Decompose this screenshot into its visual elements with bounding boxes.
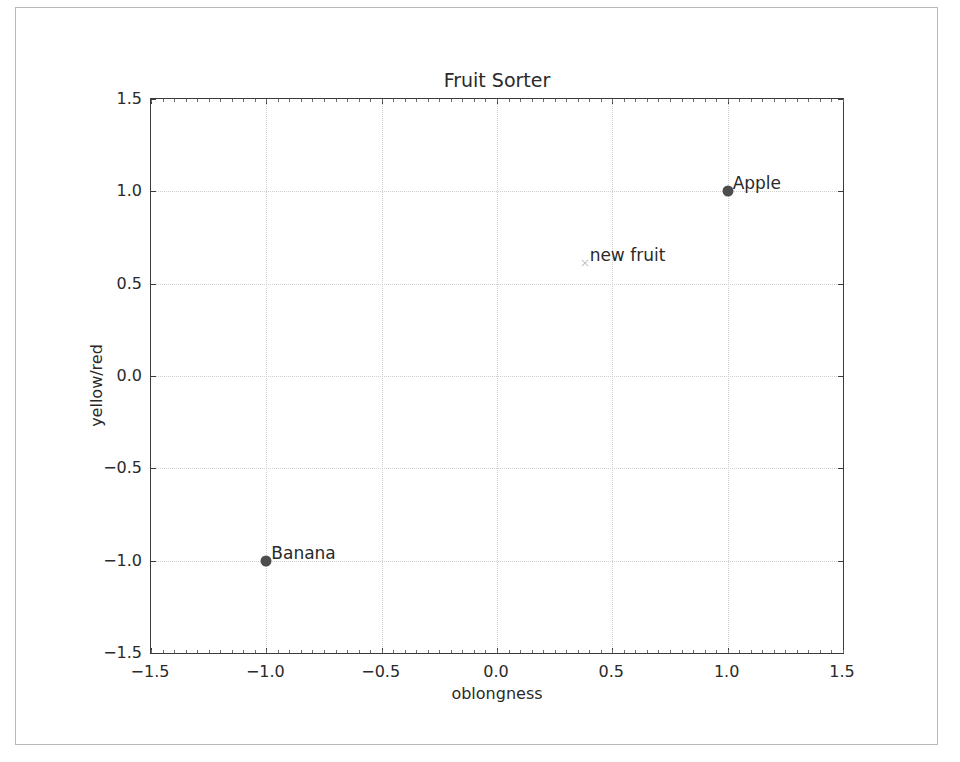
grid-line-horizontal [151,284,843,285]
x-axis-minor-tick [186,650,187,653]
page-title: Fruit Sorter [150,69,844,91]
y-axis-tick [838,561,843,562]
x-axis-minor-tick [739,99,740,102]
x-axis-minor-tick [163,99,164,102]
x-axis-minor-tick [509,650,510,653]
y-axis-tick [151,376,156,377]
x-axis-minor-tick [716,99,717,102]
x-tick-label: 1.5 [829,662,854,681]
grid-line-vertical [612,99,613,653]
grid-line-vertical [728,99,729,653]
x-axis-minor-tick [797,650,798,653]
x-axis-minor-tick [635,99,636,102]
x-axis-minor-tick [462,99,463,102]
x-axis-minor-tick [474,99,475,102]
y-tick-label: 0.5 [117,273,142,292]
x-axis-minor-tick [497,99,498,102]
x-axis-minor-tick [220,99,221,102]
x-axis-minor-tick [543,99,544,102]
x-axis-minor-tick [186,99,187,102]
data-point-label: Apple [733,173,781,193]
x-axis-minor-tick [174,99,175,102]
x-axis-minor-tick [647,650,648,653]
x-axis-minor-tick [301,99,302,102]
x-axis-minor-tick [220,650,221,653]
x-axis-minor-tick [347,99,348,102]
x-axis-minor-tick [485,99,486,102]
x-axis-minor-tick [255,650,256,653]
data-point-marker[interactable] [580,259,589,268]
x-axis-minor-tick [831,650,832,653]
x-axis-minor-tick [785,99,786,102]
y-axis-tick [838,99,843,100]
grid-line-horizontal [151,376,843,377]
x-axis-minor-tick [682,99,683,102]
x-axis-minor-tick [520,99,521,102]
x-axis-minor-tick [370,99,371,102]
data-point-marker[interactable] [722,186,733,197]
x-axis-minor-tick [163,650,164,653]
x-axis-minor-tick [416,99,417,102]
x-axis-minor-tick [843,650,844,653]
x-axis-minor-tick [612,650,613,653]
y-axis-tick [838,653,843,654]
x-axis-minor-tick [428,650,429,653]
x-axis-minor-tick [289,99,290,102]
plot-axes-area: Applenew fruitBanana [150,98,844,654]
x-axis-minor-tick [647,99,648,102]
x-axis-minor-tick [520,650,521,653]
x-axis-minor-tick [624,99,625,102]
x-axis-minor-tick [820,650,821,653]
x-axis-minor-tick [405,99,406,102]
x-axis-minor-tick [831,99,832,102]
x-axis-minor-tick [174,650,175,653]
x-axis-minor-tick [658,99,659,102]
x-axis-minor-tick [370,650,371,653]
x-axis-minor-tick [843,99,844,102]
x-axis-minor-tick [774,99,775,102]
x-axis-minor-tick [266,99,267,102]
x-axis-minor-tick [197,99,198,102]
y-axis-tick [151,468,156,469]
x-axis-minor-tick [278,99,279,102]
x-axis-minor-tick [209,650,210,653]
x-axis-minor-tick [751,99,752,102]
x-axis-minor-tick [451,99,452,102]
x-axis-minor-tick [751,650,752,653]
x-axis-minor-tick [670,650,671,653]
x-axis-minor-tick [820,99,821,102]
x-axis-minor-tick [635,650,636,653]
x-axis-minor-tick [497,650,498,653]
x-axis-minor-tick [716,650,717,653]
x-axis-minor-tick [324,99,325,102]
x-axis-minor-tick [197,650,198,653]
x-axis-minor-tick [509,99,510,102]
y-axis-tick [838,468,843,469]
x-axis-minor-tick [624,650,625,653]
grid-line-vertical [382,99,383,653]
x-axis-minor-tick [682,650,683,653]
x-axis-minor-tick [474,650,475,653]
data-point-marker[interactable] [261,555,272,566]
x-axis-minor-tick [439,99,440,102]
x-axis-minor-tick [312,650,313,653]
x-axis-minor-tick [232,99,233,102]
x-axis-minor-tick [278,650,279,653]
x-axis-minor-tick [266,650,267,653]
x-axis-minor-tick [808,650,809,653]
x-axis-minor-tick [416,650,417,653]
x-axis-minor-tick [312,99,313,102]
x-marker-icon [580,259,589,268]
x-axis-minor-tick [232,650,233,653]
x-axis-minor-tick [439,650,440,653]
x-axis-minor-tick [658,650,659,653]
y-axis-tick [151,561,156,562]
x-axis-minor-tick [359,99,360,102]
y-axis-tick [151,284,156,285]
x-axis-minor-tick [324,650,325,653]
y-axis-tick [151,191,156,192]
x-axis-minor-tick [566,99,567,102]
grid-line-horizontal [151,561,843,562]
x-axis-minor-tick [336,650,337,653]
x-axis-minor-tick [693,650,694,653]
